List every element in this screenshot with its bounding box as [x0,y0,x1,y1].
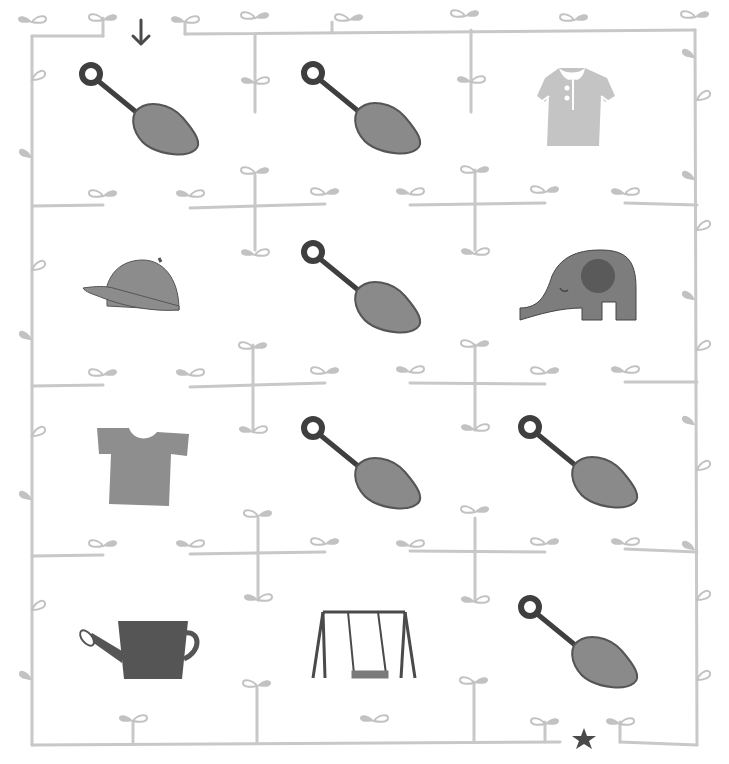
start-arrow-icon [133,20,149,44]
t-shirt-icon [97,428,189,506]
maze-board [0,0,729,764]
shovel-icon [82,65,198,154]
goal-star-icon [572,728,596,749]
shovel-icon [521,418,637,507]
shovel-icon [304,243,420,332]
shovel-icon [304,419,420,508]
shovel-icon [521,598,637,687]
cap-icon [83,258,179,310]
blouse-icon [537,68,615,146]
watering-can-icon [77,621,197,679]
shovel-icon [304,64,420,153]
swing-icon [313,612,415,678]
elephant-icon [520,250,636,320]
